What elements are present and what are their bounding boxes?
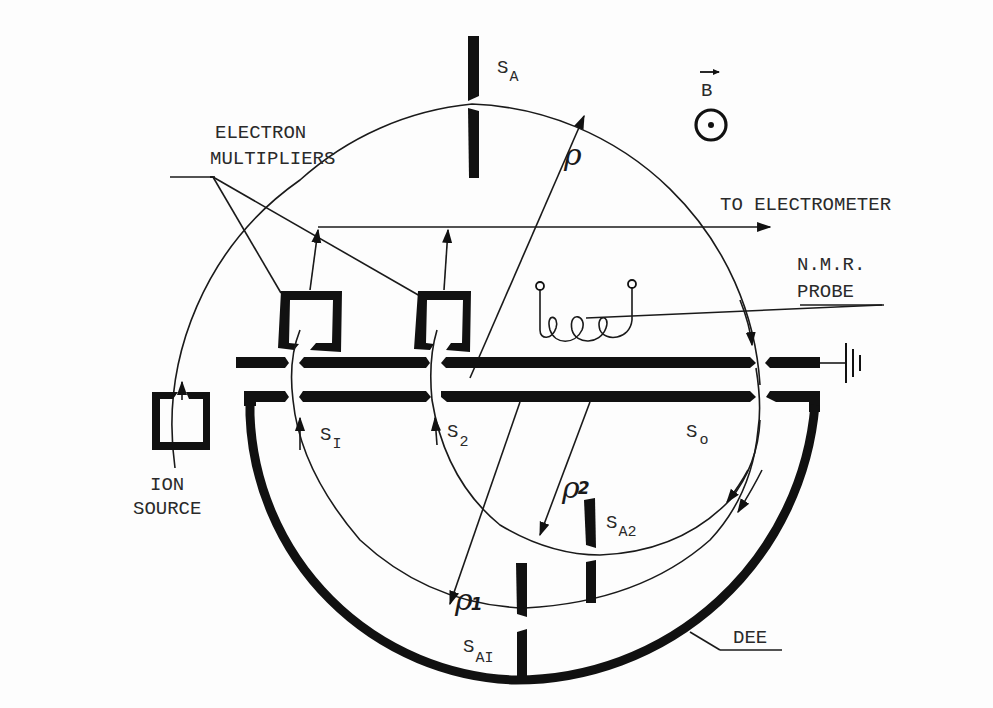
dee-label: DEE	[733, 627, 767, 649]
electron-multipliers-label-2: MULTIPLIERS	[210, 148, 335, 170]
slit-sa1-label: SAI	[463, 636, 493, 667]
electron-multiplier-2	[414, 291, 471, 352]
to-electrometer-label: TO ELECTROMETER	[720, 194, 891, 216]
slit-s0-label: So	[686, 421, 708, 449]
plates-lower	[244, 391, 820, 412]
radius-rho1	[450, 402, 520, 604]
slit-sa2-label: SA2	[606, 512, 636, 541]
ground-icon	[820, 343, 860, 383]
ion-source-label-1: ION	[150, 474, 184, 496]
electron-multipliers-label-1: ELECTRON	[215, 122, 306, 144]
rho1-label: ρ1	[454, 582, 482, 617]
slit-sa2	[584, 498, 596, 603]
nmr-label-1: N.M.R.	[797, 254, 865, 276]
ion-source-label-2: SOURCE	[133, 498, 201, 520]
slit-sa1	[516, 563, 527, 680]
slit-sa	[468, 36, 479, 178]
nmr-coil-icon	[536, 280, 636, 341]
slit-s1-label: SI	[320, 424, 341, 453]
ion-source	[152, 392, 210, 450]
electron-multiplier-1	[278, 291, 342, 352]
nmr-label-2: PROBE	[797, 281, 854, 303]
rho-label: ρ	[563, 137, 582, 172]
mass-spectrometer-diagram: SA B ρ ELECTRON MULTIPLIERS TO ELECTROME…	[0, 0, 993, 708]
slit-sa-label: SA	[497, 57, 518, 86]
rho2-label: ρ2	[561, 470, 589, 505]
field-label: B	[701, 80, 712, 102]
plates-upper	[236, 357, 820, 368]
radius-rho2	[540, 402, 590, 535]
slit-s2-label: S2	[447, 421, 468, 451]
